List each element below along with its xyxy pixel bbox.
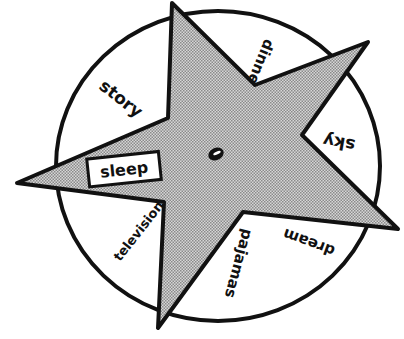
center-label-box: sleep xyxy=(87,152,162,187)
spinner-illustration: story dinner sky dream pajamas televisio… xyxy=(0,0,404,339)
